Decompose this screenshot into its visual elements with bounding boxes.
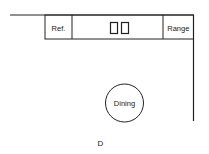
kitchen-plan: Ref. Range Dining D <box>0 0 209 154</box>
caption-label: D <box>98 139 104 148</box>
ref-label: Ref. <box>52 24 66 33</box>
dining-label: Dining <box>114 99 135 108</box>
sink-right-basin <box>122 23 129 34</box>
sink-left-basin <box>111 23 118 34</box>
range-label: Range <box>167 24 189 33</box>
